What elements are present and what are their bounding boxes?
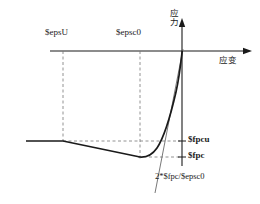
stress-axis-arrow	[179, 18, 185, 27]
strain-axis-arrow	[243, 48, 252, 54]
label-tangent-slope: 2*$fpc/$epsc0	[155, 172, 205, 181]
label-eps-u: $epsU	[45, 28, 68, 37]
strain-axis-label: 应变	[219, 56, 237, 65]
label-fpcu: $fpcu	[188, 135, 210, 144]
stress-strain-diagram: $epsU $epsc0 $fpcu $fpc 2*$fpc/$epsc0 应力…	[0, 0, 260, 204]
stress-axis	[179, 18, 185, 166]
stress-axis-label: 应力	[168, 9, 177, 26]
strain-axis	[50, 48, 252, 54]
label-fpc: $fpc	[188, 151, 205, 160]
label-eps-c0: $epsc0	[116, 28, 141, 37]
